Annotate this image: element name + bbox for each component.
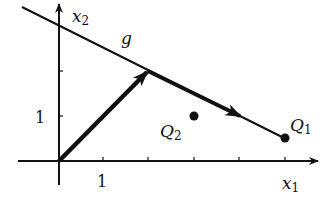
vector-along-g bbox=[148, 71, 240, 116]
diagram-canvas: x2 x1 g Q1 Q2 1 1 bbox=[0, 0, 328, 202]
point-q1 bbox=[281, 134, 290, 143]
point-q2 bbox=[190, 112, 199, 121]
vector-origin-to-point bbox=[59, 72, 147, 161]
y-axis-label: x2 bbox=[72, 6, 89, 28]
point-q1-label: Q1 bbox=[290, 115, 312, 137]
x-axis-label: x1 bbox=[282, 173, 299, 195]
line-g-label: g bbox=[121, 28, 132, 48]
x-tick-label-1: 1 bbox=[97, 172, 107, 191]
point-q2-label: Q2 bbox=[160, 121, 182, 143]
y-tick-label-1: 1 bbox=[35, 108, 45, 127]
